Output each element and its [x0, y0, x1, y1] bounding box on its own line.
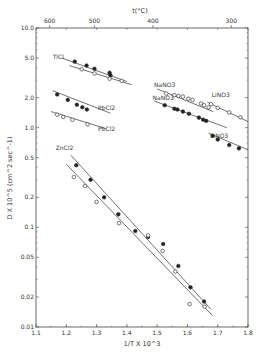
filled-marker: [85, 108, 89, 112]
x-tick-label: 1.1: [31, 329, 41, 336]
filled-marker: [55, 93, 59, 97]
filled-marker: [176, 108, 180, 112]
y-tick-label: 5.0: [24, 54, 34, 61]
open-marker: [174, 270, 178, 274]
open-marker: [120, 79, 124, 83]
open-marker: [83, 184, 87, 188]
chart-svg: 1.11.21.31.41.51.61.71.810.05.02.01.00.5…: [0, 0, 262, 358]
open-marker: [72, 175, 76, 179]
filled-marker: [237, 147, 241, 151]
series-label: PbCl2: [98, 125, 115, 132]
filled-marker: [102, 196, 106, 200]
open-marker: [227, 111, 231, 115]
filled-marker: [75, 103, 79, 107]
filled-marker: [74, 163, 78, 167]
annotations: TlClPbCl2PbCl2NaNO3NaNO3LiNO3LiNO3ZnCl2: [52, 53, 230, 151]
open-marker: [161, 249, 165, 253]
series-label: ZnCl2: [56, 144, 74, 151]
filled-marker: [81, 106, 85, 110]
x-tick-label: 1.6: [183, 329, 193, 336]
series-label: PbCl2: [98, 104, 115, 111]
x-tick-label: 1.2: [62, 329, 72, 336]
top-axis-label: t(°C): [132, 7, 147, 15]
filled-marker: [66, 98, 70, 102]
open-marker: [86, 123, 90, 127]
open-marker: [55, 113, 59, 117]
series-tlcl-filled-: [62, 58, 127, 82]
open-marker: [207, 106, 211, 110]
open-marker: [216, 106, 220, 110]
open-marker: [71, 118, 75, 122]
series-zncl2-filled-: [71, 155, 211, 309]
series-zncl2-open-: [66, 164, 212, 315]
y-tick-label: 0.05: [21, 253, 35, 260]
series-tlcl-open-: [69, 66, 131, 85]
filled-marker: [181, 110, 185, 114]
y-tick-label: 0.01: [21, 323, 35, 330]
series-label: TlCl: [52, 53, 65, 60]
filled-marker: [73, 60, 77, 64]
x-axis-label: 1/T X 10^3: [124, 340, 161, 348]
open-marker: [95, 200, 99, 204]
open-marker: [177, 94, 181, 98]
axes: 1.11.21.31.41.51.61.71.810.05.02.01.00.5…: [21, 17, 253, 336]
y-axis-label: D X 10^5 (cm^2 sec^-1): [6, 136, 14, 219]
y-tick-label: 2.0: [24, 94, 34, 101]
open-marker: [187, 97, 191, 101]
open-marker: [202, 103, 206, 107]
filled-marker: [85, 64, 89, 68]
filled-marker: [187, 112, 191, 116]
plot-border: [36, 28, 248, 327]
series-label: NaNO3: [153, 94, 174, 101]
open-marker: [203, 305, 207, 309]
top-tick-label: 600: [44, 17, 56, 24]
plot-frame: [36, 28, 248, 327]
filled-marker: [161, 242, 165, 246]
filled-marker: [202, 300, 206, 304]
x-tick-label: 1.7: [213, 329, 223, 336]
top-tick-label: 300: [226, 17, 238, 24]
filled-marker: [89, 178, 93, 182]
open-marker: [93, 72, 97, 76]
fit-line: [66, 164, 212, 315]
y-tick-label: 10.0: [21, 24, 35, 31]
y-tick-label: 0.02: [21, 293, 35, 300]
filled-marker: [117, 213, 121, 217]
filled-marker: [134, 229, 138, 233]
open-marker: [209, 102, 213, 106]
y-tick-label: 1.0: [24, 124, 34, 131]
top-tick-label: 500: [89, 17, 101, 24]
open-marker: [108, 77, 112, 81]
top-tick-label: 400: [147, 17, 159, 24]
filled-marker: [163, 103, 167, 107]
filled-marker: [227, 143, 231, 147]
x-tick-label: 1.5: [152, 329, 162, 336]
series-label: NaNO3: [154, 81, 175, 88]
series-label: LiNO3: [210, 132, 228, 139]
x-tick-label: 1.3: [92, 329, 102, 336]
filled-marker: [204, 119, 208, 123]
open-marker: [191, 98, 195, 102]
filled-marker: [189, 286, 193, 290]
y-tick-label: 0.2: [24, 193, 34, 200]
y-tick-label: 0.1: [24, 223, 34, 230]
open-marker: [61, 115, 65, 119]
series-label: LiNO3: [212, 91, 230, 98]
open-marker: [181, 95, 185, 99]
y-tick-label: 0.5: [24, 154, 34, 161]
filled-marker: [177, 264, 181, 268]
x-tick-label: 1.4: [122, 329, 132, 336]
filled-marker: [109, 74, 113, 78]
open-marker: [188, 302, 192, 306]
open-marker: [146, 234, 150, 238]
filled-marker: [93, 67, 97, 71]
series-lino3-open-: [207, 102, 248, 121]
open-marker: [80, 68, 84, 72]
open-marker: [117, 221, 121, 225]
open-marker: [239, 116, 243, 120]
x-tick-label: 1.8: [243, 329, 253, 336]
filled-marker: [197, 116, 201, 120]
series-nano3-filled-: [154, 101, 227, 128]
